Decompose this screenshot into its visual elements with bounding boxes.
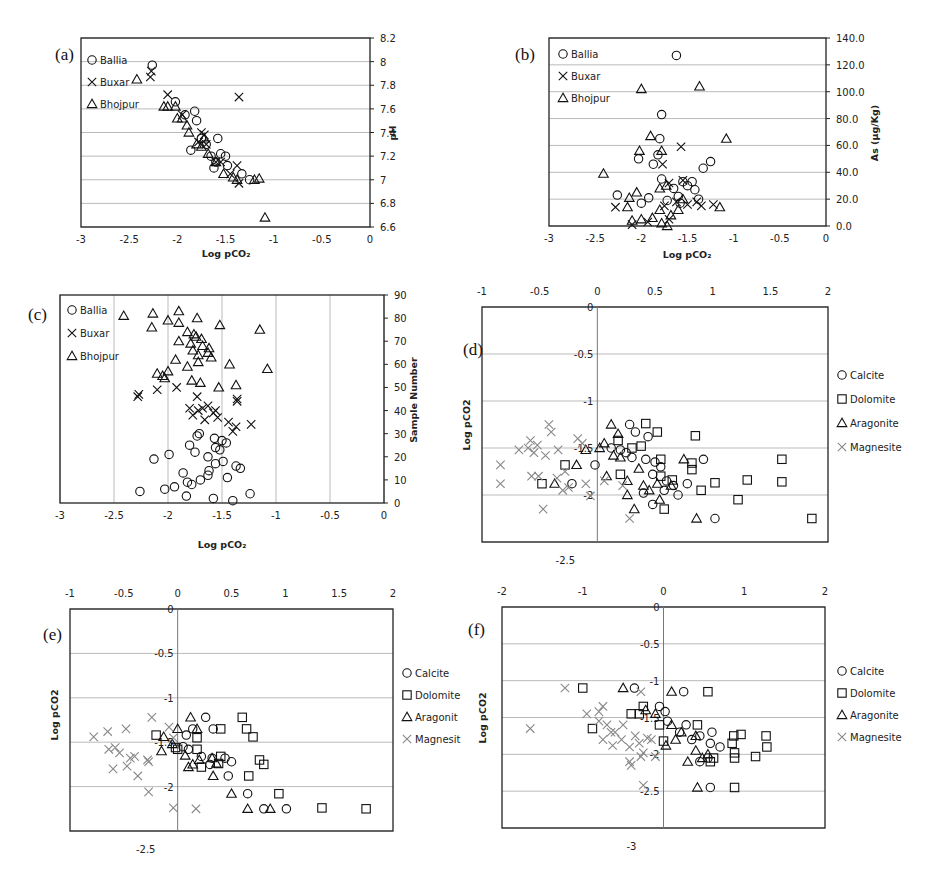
legend-bhojpur-marker <box>67 351 77 359</box>
magnesite-marker <box>599 702 607 710</box>
legend-item: Dolomite <box>403 690 461 701</box>
calcite-marker <box>642 455 650 463</box>
aragonite-marker <box>623 476 633 484</box>
y-tick-label: 60.0 <box>836 140 858 151</box>
legend-label: Buxar <box>80 328 110 339</box>
y-tick-label: 90 <box>394 290 407 301</box>
bhojpur-marker <box>152 369 162 377</box>
dolomite-marker <box>637 442 645 450</box>
legend-item: Buxar <box>88 77 130 88</box>
legend-aragonite-marker <box>837 418 847 426</box>
dolomite-marker <box>762 732 770 740</box>
x-tick-label: 0 <box>381 510 387 521</box>
y-tick-label: -2 <box>583 490 593 501</box>
ballia-marker <box>148 61 156 69</box>
legend-dolomite-marker <box>403 691 411 699</box>
x-tick-label: 1.5 <box>331 588 347 599</box>
ballia-marker <box>613 191 621 199</box>
bhojpur-marker <box>187 376 197 384</box>
calcite-marker <box>706 739 714 747</box>
legend-item: Magnesit <box>403 734 461 745</box>
magnesite-marker <box>148 713 156 721</box>
bhojpur-marker <box>132 75 142 83</box>
y-tick-label: 7 <box>380 175 386 186</box>
magnesite-marker <box>583 710 591 718</box>
dolomite-marker <box>275 790 283 798</box>
magnesite-marker <box>625 514 633 522</box>
series-dolomite <box>152 713 370 813</box>
bhojpur-marker <box>623 202 633 210</box>
dolomite-marker <box>711 479 719 487</box>
calcite-marker <box>661 707 669 715</box>
buxar-marker <box>172 383 180 391</box>
buxar-marker <box>224 418 232 426</box>
aragonite-marker <box>186 713 196 721</box>
legend-label: Bhojpur <box>80 351 120 362</box>
bhojpur-marker <box>147 323 157 331</box>
series-magnesite <box>526 684 660 790</box>
magnesite-marker <box>496 480 504 488</box>
x-tick-label: -1 <box>578 586 588 597</box>
calcite-marker <box>201 713 209 721</box>
legend-ballia-marker <box>559 50 567 58</box>
magnesite-marker <box>105 745 113 753</box>
magnesite-marker <box>496 461 504 469</box>
bhojpur-marker <box>646 131 656 139</box>
legend: BalliaBuxarBhojpur <box>67 305 120 362</box>
dolomite-marker <box>688 465 696 473</box>
calcite-marker <box>682 721 690 729</box>
legend-label: Magnesite <box>850 442 902 453</box>
calcite-marker <box>243 790 251 798</box>
x-tick-label: 1 <box>709 286 715 297</box>
legend-label: Ballia <box>571 49 598 60</box>
bhojpur-marker <box>174 336 184 344</box>
dolomite-marker <box>751 752 759 760</box>
x-tick-label: 0 <box>594 286 600 297</box>
y-tick-label: 40 <box>394 406 407 417</box>
ballia-marker <box>699 164 707 172</box>
dolomite-marker <box>730 783 738 791</box>
panel-label: (f) <box>468 620 485 639</box>
y-tick-label: 0.0 <box>836 221 852 232</box>
aragonite-marker <box>208 771 218 779</box>
dolomite-marker <box>778 455 786 463</box>
buxar-marker <box>235 93 243 101</box>
legend-label: Dolomite <box>415 690 460 701</box>
x-tick-label: -1 <box>269 234 279 245</box>
legend-item: Dolomite <box>838 688 896 699</box>
magnesite-marker <box>547 428 555 436</box>
legend-ballia-marker <box>88 56 96 64</box>
aragonite-marker <box>691 746 701 754</box>
calcite-marker <box>708 728 716 736</box>
calcite-marker <box>182 731 190 739</box>
bhojpur-marker <box>655 184 665 192</box>
bhojpur-marker <box>695 82 705 90</box>
calcite-marker <box>644 433 652 441</box>
dolomite-marker <box>763 743 771 751</box>
ballia-marker <box>238 170 246 178</box>
ballia-marker <box>691 186 699 194</box>
magnesite-marker <box>619 721 627 729</box>
dolomite-marker <box>318 804 326 812</box>
dolomite-marker <box>730 749 738 757</box>
x-tick-label: 0 <box>660 586 666 597</box>
magnesite-marker <box>595 717 603 725</box>
y-tick-label: 70 <box>394 336 407 347</box>
legend: CalciteDolomiteAragoniteMagnesite <box>837 370 901 453</box>
x-axis-label: Log pCO₂ <box>663 249 712 260</box>
y-tick-label: 30 <box>394 429 407 440</box>
y-tick-label: -0.5 <box>154 648 174 659</box>
x-tick-label: 0.5 <box>224 588 240 599</box>
ballia-marker <box>657 110 665 118</box>
calcite-marker <box>260 805 268 813</box>
bhojpur-marker <box>599 169 609 177</box>
dolomite-marker <box>193 734 201 742</box>
legend-item: Ballia <box>559 49 599 60</box>
legend-magnesite-marker <box>838 733 846 741</box>
panel-b: -3-2.5-2-1.5-1-0.500.020.040.060.080.010… <box>515 33 880 260</box>
bhojpur-marker <box>627 216 637 224</box>
calcite-marker <box>711 514 719 522</box>
legend-item: Calcite <box>838 666 884 677</box>
x-tick-label: -3 <box>55 510 65 521</box>
legend: CalciteDolomiteAragoniteMagnesite <box>837 666 901 743</box>
